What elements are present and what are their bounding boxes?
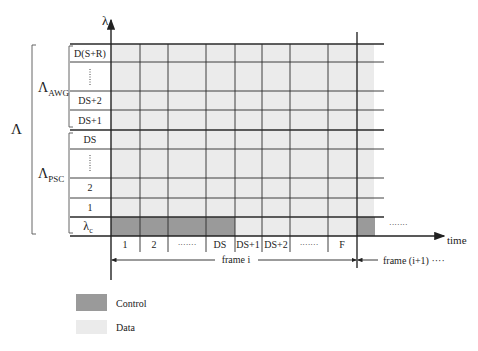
- frame-next-dots: ·······: [389, 220, 408, 229]
- row-label: 2: [88, 182, 93, 193]
- row-label: DS+2: [78, 95, 101, 106]
- column-label: F: [339, 239, 345, 250]
- legend-data-label: Data: [116, 322, 135, 333]
- time-axis-label: time: [447, 234, 467, 246]
- psc-group-label: ΛPSC: [38, 166, 64, 184]
- column-label: DS: [214, 239, 227, 250]
- row-label: DS: [84, 134, 97, 145]
- column-label: 2: [152, 239, 157, 250]
- data-region-control-row: [235, 217, 357, 236]
- legend-control-swatch: [76, 294, 107, 311]
- outer-bracket: [32, 45, 36, 234]
- row-labels: D(S+R) DS+2 DS+1 DS 2 1 λc: [74, 48, 106, 235]
- psc-bracket: [69, 133, 73, 233]
- column-label: 1: [123, 239, 128, 250]
- column-labels: 1 2 ······· DS DS+1 DS+2 ······· F: [123, 239, 346, 250]
- control-region-frame-i: [111, 217, 235, 236]
- frame-next-label: frame (i+1) ····: [383, 255, 445, 267]
- control-region-frame-next: [357, 217, 375, 236]
- row-label: D(S+R): [74, 48, 106, 60]
- wdm-frame-diagram: λ time Λ ΛAWG ΛPSC D(S+R) DS+2 DS+1 DS 2…: [0, 0, 478, 351]
- row-label-control: λc: [83, 219, 93, 235]
- column-label: ·······: [178, 240, 197, 249]
- wavelength-axis-label: λ: [102, 13, 109, 28]
- frame-i-label: frame i: [222, 254, 251, 265]
- awg-bracket: [69, 46, 73, 127]
- legend-control-label: Control: [116, 298, 147, 309]
- column-label: DS+1: [236, 239, 259, 250]
- column-label: DS+2: [264, 239, 287, 250]
- legend-data-swatch: [76, 320, 107, 334]
- column-label: ·······: [300, 240, 319, 249]
- outer-group-label: Λ: [11, 121, 22, 137]
- row-label: 1: [88, 202, 93, 213]
- row-label: DS+1: [78, 115, 101, 126]
- awg-group-label: ΛAWG: [38, 80, 69, 98]
